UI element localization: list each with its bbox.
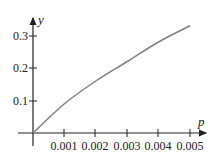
data-curve — [33, 26, 190, 133]
x-axis-label: p — [197, 114, 205, 129]
y-tick-label: 0.3 — [13, 29, 28, 43]
y-tick-label: 0.2 — [13, 61, 28, 75]
x-tick-label: 0.005 — [177, 139, 204, 153]
x-tick-label: 0.003 — [114, 139, 141, 153]
y-axis-label: y — [36, 12, 44, 27]
x-tick-label: 0.004 — [145, 139, 172, 153]
x-tick-label: 0.001 — [51, 139, 78, 153]
chart: 0.001 0.002 0.003 0.004 0.005 0.1 0.2 0.… — [0, 0, 215, 157]
x-tick-label: 0.002 — [82, 139, 109, 153]
y-tick-label: 0.1 — [13, 94, 28, 108]
